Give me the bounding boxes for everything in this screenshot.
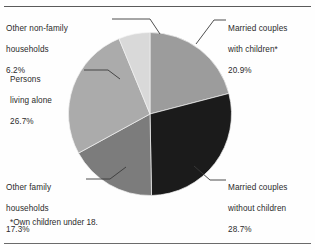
callout-line1: Married couples: [228, 24, 314, 34]
callout-line1: Other family: [6, 183, 111, 193]
callout-line2: households: [6, 204, 111, 214]
callout-line1: Married couples: [228, 183, 314, 193]
top-divider-rule: [4, 6, 311, 7]
callout-label-married-couples-with-children: Married couples with children* 20.9%: [228, 14, 314, 87]
callout-percent: 28.7%: [228, 225, 314, 235]
callout-line2: living alone: [10, 96, 110, 106]
callout-percent: 20.9%: [228, 66, 314, 76]
callout-label-married-couples-without-children: Married couples without children 28.7%: [228, 173, 314, 246]
footnote: *Own children under 18.: [10, 218, 98, 228]
callout-label-other-family-households: Other family households 17.3%: [6, 173, 111, 246]
callout-line1: Persons: [10, 75, 110, 85]
callout-line1: Other non-family: [6, 24, 111, 34]
callout-percent: 26.7%: [10, 117, 110, 127]
pie-chart-figure: Other non-family households 6.2% Persons…: [0, 0, 315, 250]
callout-line2: households: [6, 45, 111, 55]
callout-line2: without children: [228, 204, 314, 214]
callout-label-persons-living-alone: Persons living alone 26.7%: [10, 65, 110, 138]
callout-line2: with children*: [228, 45, 314, 55]
